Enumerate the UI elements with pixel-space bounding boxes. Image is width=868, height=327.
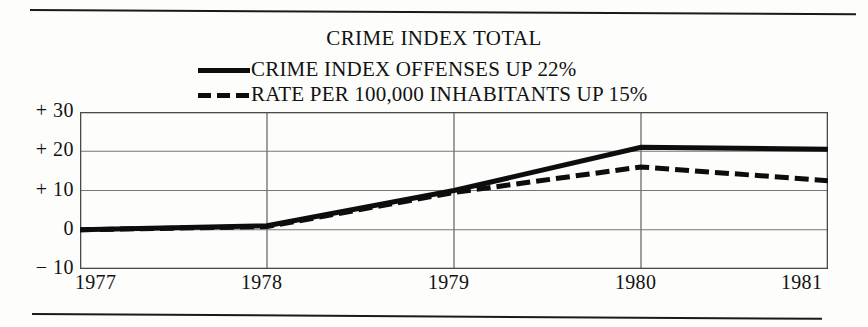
y-tick-label--10: − 10	[36, 256, 74, 279]
y-axis-tick-labels: + 30+ 20+ 100− 10	[0, 0, 74, 327]
legend-label: RATE PER 100,000 INHABITANTS UP 15%	[251, 82, 648, 107]
plot-area	[80, 112, 828, 269]
chart-plot-svg	[80, 112, 828, 269]
legend-label: CRIME INDEX OFFENSES UP 22%	[251, 57, 577, 82]
y-tick-label-10: + 10	[36, 178, 74, 201]
x-tick-label-1978: 1978	[241, 271, 282, 294]
x-tick-label-1980: 1980	[615, 271, 656, 294]
y-tick-label-20: + 20	[36, 138, 74, 161]
chart-title: CRIME INDEX TOTAL	[0, 26, 868, 51]
solid-line-swatch	[198, 60, 250, 80]
x-tick-label-1977: 1977	[75, 271, 116, 294]
legend-item-rate-per-100000: RATE PER 100,000 INHABITANTS UP 15%	[198, 82, 648, 107]
y-tick-label-0: 0	[64, 217, 75, 240]
y-tick-label-30: + 30	[36, 99, 74, 122]
top-divider-rule	[30, 9, 856, 15]
legend-item-crime-index-offenses: CRIME INDEX OFFENSES UP 22%	[198, 57, 577, 82]
x-tick-label-1979: 1979	[428, 271, 469, 294]
crime-index-chart-figure: CRIME INDEX TOTAL CRIME INDEX OFFENSES U…	[0, 0, 868, 327]
x-tick-label-1981: 1981	[781, 271, 822, 294]
dashed-line-swatch	[198, 85, 250, 105]
bottom-divider-rule	[32, 313, 822, 320]
